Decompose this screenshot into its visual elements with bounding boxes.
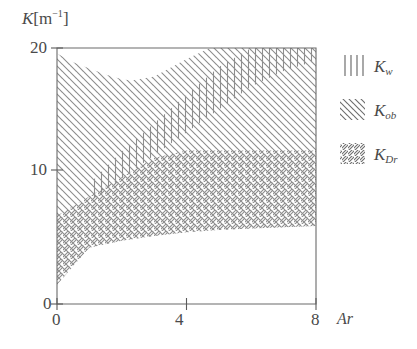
legend-k-ob-sub: ob [385,109,396,121]
y-axis-unit-open: [m [33,9,52,28]
y-axis-unit-close: ] [63,9,69,28]
legend-k-w-base: K [374,57,385,76]
legend-swatch-k-dr [340,143,365,164]
legend-swatch-k-w [340,55,365,76]
legend-k-ob-base: K [374,101,385,120]
x-tick-label-0: 0 [52,311,61,328]
y-axis-symbol: K [22,9,33,28]
legend-k-w-sub: w [385,65,392,77]
legend-k-dr-sub: Dr [385,153,397,165]
x-tick-label-4: 4 [175,311,184,328]
x-tick-label-8: 8 [311,311,320,328]
legend-label-k-dr: KDr [374,146,398,165]
plot-canvas [0,0,417,349]
y-axis-unit-exponent: −1 [52,8,63,19]
legend-k-dr-base: K [374,145,385,164]
y-axis-label: K[m−1] [22,9,69,27]
legend-label-k-ob: Kob [374,102,396,121]
y-tick-label-20: 20 [30,39,47,56]
y-tick-label-0: 0 [43,295,52,312]
chart-figure: K[m−1] 20 10 0 0 4 8 Ar Kw Kob KDr [0,0,417,349]
legend-label-k-w: Kw [374,58,393,77]
x-axis-label: Ar [337,311,353,327]
legend-swatch-k-ob [340,99,365,120]
y-tick-label-10: 10 [30,161,47,178]
